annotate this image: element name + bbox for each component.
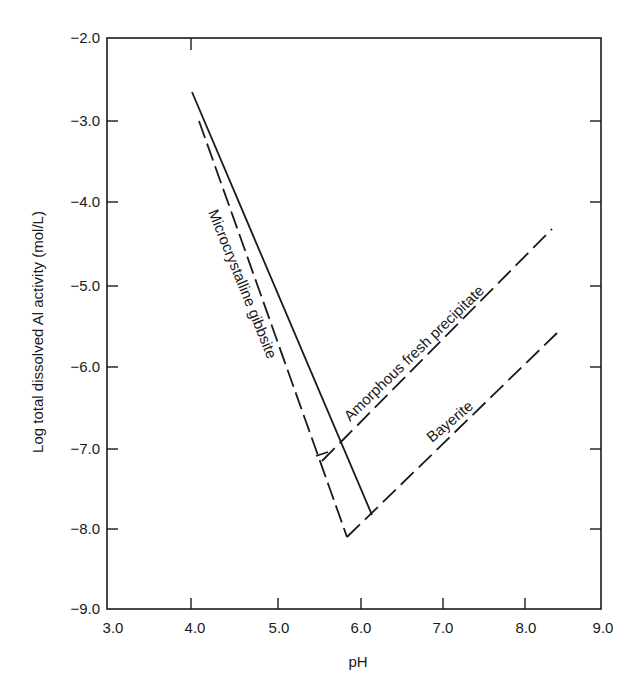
bayerite-line — [347, 333, 557, 537]
y-tick-label: −9.0 — [70, 600, 100, 617]
x-tick-label: 3.0 — [103, 619, 124, 636]
x-tick-labels: 3.0 4.0 5.0 6.0 7.0 8.0 9.0 — [103, 619, 614, 636]
y-tick-label: −6.0 — [70, 358, 100, 375]
x-axis-ticks — [191, 598, 525, 609]
ph-solubility-chart: −2.0 −3.0 −4.0 −5.0 −6.0 −7.0 −8.0 −9.0 … — [0, 0, 636, 699]
solid-line — [192, 92, 372, 515]
x-tick-label: 6.0 — [351, 619, 372, 636]
y-tick-label: −3.0 — [70, 112, 100, 129]
y-tick-label: −2.0 — [70, 29, 100, 46]
x-axis-title: pH — [348, 653, 367, 670]
x-tick-label: 9.0 — [593, 619, 614, 636]
plot-frame — [107, 38, 601, 609]
x-tick-label: 5.0 — [269, 619, 290, 636]
microcrystalline-gibbsite-line — [199, 121, 347, 537]
x-tick-label: 4.0 — [185, 619, 206, 636]
y-axis-ticks — [107, 121, 118, 529]
y-tick-label: −7.0 — [70, 440, 100, 457]
y-tick-label: −5.0 — [70, 277, 100, 294]
y-axis-right-ticks — [590, 121, 601, 529]
label-microcrystalline-gibbsite: Microcrystalline gibbsite — [205, 207, 280, 361]
y-tick-labels: −2.0 −3.0 −4.0 −5.0 −6.0 −7.0 −8.0 −9.0 — [70, 29, 100, 617]
x-tick-label: 7.0 — [433, 619, 454, 636]
y-tick-label: −8.0 — [70, 520, 100, 537]
y-tick-label: −4.0 — [70, 193, 100, 210]
x-tick-label: 8.0 — [516, 619, 537, 636]
y-axis-title: Log total dissolved Al activity (mol/L) — [29, 211, 46, 453]
